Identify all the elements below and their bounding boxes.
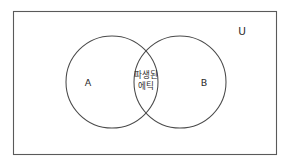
set-b-label: B <box>201 77 208 88</box>
universal-set-label: U <box>238 25 246 37</box>
venn-diagram-canvas: U A B 파생된 에틱 <box>0 0 289 166</box>
set-a-label: A <box>85 77 92 88</box>
venn-diagram: U A B 파생된 에틱 <box>0 0 289 166</box>
intersection-label-line-1: 파생된 <box>134 69 158 80</box>
intersection-label-line-2: 에틱 <box>138 80 154 91</box>
